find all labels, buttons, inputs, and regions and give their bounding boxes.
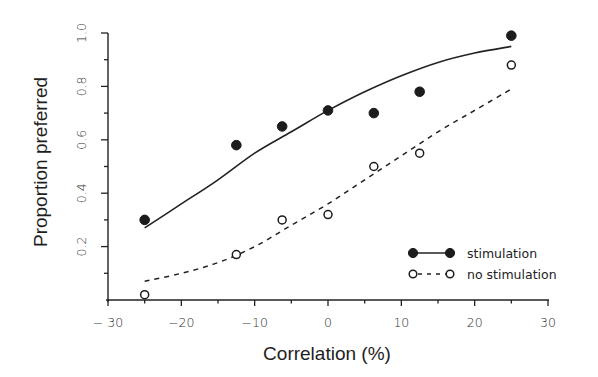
stimulation-data-point [140, 215, 150, 225]
legend: stimulation no stimulation [408, 246, 556, 282]
stimulation-data-point [415, 87, 425, 97]
chart: − 30−20−100102030 0.20.40.60.81.0 Correl… [0, 0, 598, 377]
no-stimulation-fit-curve [145, 89, 512, 281]
y-tick-label: 0.4 [74, 183, 89, 203]
x-tick-label: 30 [540, 315, 556, 330]
x-tick-label: 0 [324, 315, 332, 330]
stimulation-fit-curve [145, 46, 512, 228]
y-ticks: 0.20.40.60.81.0 [74, 23, 108, 273]
x-tick-label: − 30 [93, 315, 123, 330]
stimulation-data-point [232, 140, 242, 150]
x-tick-label: −10 [241, 315, 267, 330]
legend-item-no-stimulation: no stimulation [409, 267, 556, 282]
legend-label-no-stimulation: no stimulation [467, 267, 557, 282]
stimulation-data-point [277, 122, 287, 132]
no-stimulation-data-point [324, 211, 332, 219]
y-axis-title: Proportion preferred [30, 77, 51, 247]
stimulation-data-point [323, 106, 333, 116]
no-stimulation-data-point [232, 251, 240, 259]
x-axis-title: Correlation (%) [263, 343, 391, 364]
no-stimulation-data-point [370, 163, 378, 171]
fit-curves [145, 46, 512, 281]
stimulation-data-point [507, 31, 517, 41]
data-points [140, 31, 516, 299]
no-stimulation-data-point [507, 61, 515, 69]
legend-label-stimulation: stimulation [467, 246, 537, 261]
no-stimulation-data-point [278, 216, 286, 224]
no-stimulation-data-point [416, 149, 424, 157]
open-circle-icon [446, 270, 454, 278]
y-tick-label: 1.0 [74, 23, 89, 43]
open-circle-icon [409, 270, 417, 278]
x-ticks: − 30−20−100102030 [93, 300, 556, 330]
no-stimulation-data-point [141, 291, 149, 299]
y-tick-label: 0.2 [74, 237, 89, 257]
x-tick-label: 20 [467, 315, 483, 330]
legend-item-stimulation: stimulation [408, 246, 537, 261]
y-tick-label: 0.8 [74, 76, 89, 96]
filled-circle-icon [445, 248, 454, 257]
stimulation-data-point [369, 108, 379, 118]
y-tick-label: 0.6 [74, 130, 89, 150]
axes: − 30−20−100102030 0.20.40.60.81.0 [74, 23, 556, 330]
filled-circle-icon [408, 248, 417, 257]
x-tick-label: −20 [168, 315, 194, 330]
x-tick-label: 10 [393, 315, 409, 330]
